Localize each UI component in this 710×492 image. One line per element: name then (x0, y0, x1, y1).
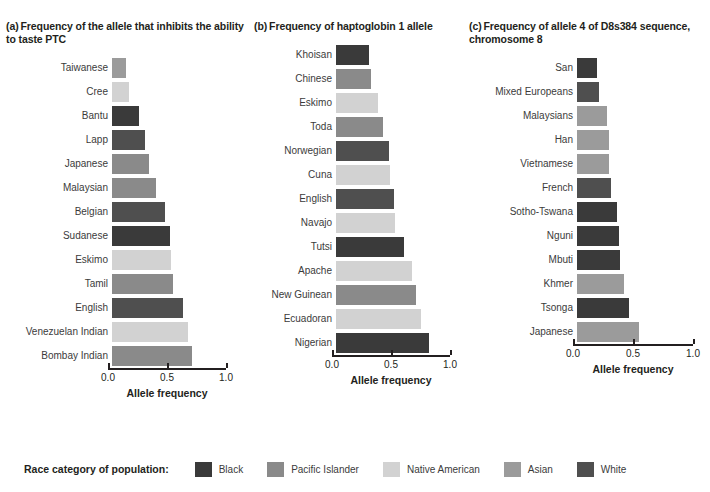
bar (577, 130, 609, 150)
bar-track (112, 224, 230, 248)
legend-item: White (577, 462, 627, 477)
bar (577, 82, 599, 102)
bar-row: Eskimo (0, 248, 250, 272)
bar-row: Norwegian (250, 139, 465, 163)
legend-swatch (504, 462, 521, 477)
bar (336, 93, 378, 113)
bar (577, 178, 611, 198)
bar-row: French (465, 176, 710, 200)
panel-a-rows: TaiwaneseCreeBantuLappJapaneseMalaysianB… (0, 46, 250, 368)
bar-track (577, 104, 697, 128)
bar-track (336, 283, 454, 307)
bar-category-label: Sotho-Tswana (465, 207, 577, 217)
bar-category-label: Japanese (465, 327, 577, 337)
bar (577, 250, 620, 270)
bar-row: Vietnamese (465, 152, 710, 176)
x-axis-tick-label: 1.0 (443, 359, 457, 370)
bar (336, 285, 416, 305)
figure-allele-frequency-charts: (a)Frequency of the allele that inhibits… (0, 0, 710, 492)
bar-track (336, 211, 454, 235)
bar (577, 226, 619, 246)
bar-row: Apache (250, 259, 465, 283)
panel-a-label: (a) (6, 20, 19, 32)
bar-track (112, 104, 230, 128)
bar-category-label: Taiwanese (0, 63, 112, 73)
bar-category-label: Tsonga (465, 303, 577, 313)
bar-category-label: Bantu (0, 111, 112, 121)
panel-b-axis: 0.00.51.0Allele frequency (250, 355, 465, 381)
panel-b-plot: KhoisanChineseEskimoTodaNorwegianCunaEng… (250, 33, 465, 381)
x-axis-tick-label: 0.5 (160, 372, 174, 383)
bar-track (336, 67, 454, 91)
bar-track (577, 152, 697, 176)
bar (577, 274, 624, 294)
bar-category-label: Malaysians (465, 111, 577, 121)
bar-row: Han (465, 128, 710, 152)
bar (577, 322, 639, 342)
bar-row: Belgian (0, 200, 250, 224)
bar-track (112, 176, 230, 200)
bar-row: Mixed Europeans (465, 80, 710, 104)
panel-c-title: (c)Frequency of allele 4 of D8s384 seque… (465, 0, 710, 46)
bar-track (112, 80, 230, 104)
x-axis-tick-label: 1.0 (686, 348, 700, 359)
bar-category-label: Khmer (465, 279, 577, 289)
bar-track (577, 80, 697, 104)
bar-track (577, 296, 697, 320)
bar-track (112, 320, 230, 344)
legend-item: Native American (383, 462, 480, 477)
bar (336, 69, 371, 89)
bar-row: Tutsi (250, 235, 465, 259)
bar (336, 333, 429, 353)
bar-row: Japanese (465, 320, 710, 344)
bar (336, 261, 412, 281)
bar-row: Khoisan (250, 43, 465, 67)
bar-track (112, 344, 230, 368)
bar-track (112, 272, 230, 296)
bar (112, 250, 171, 270)
bar-category-label: Eskimo (0, 255, 112, 265)
x-axis-tick (391, 350, 393, 355)
legend-label: Pacific Islander (291, 464, 359, 475)
bar-category-label: Tutsi (250, 242, 336, 252)
x-axis-tick (108, 363, 110, 368)
panel-a: (a)Frequency of the allele that inhibits… (0, 0, 250, 440)
bar (336, 117, 383, 137)
panel-a-title-text: Frequency of the allele that inhibits th… (6, 20, 244, 45)
bar (577, 106, 607, 126)
panel-a-plot: TaiwaneseCreeBantuLappJapaneseMalaysianB… (0, 46, 250, 394)
panel-c-rows: SanMixed EuropeansMalaysiansHanVietnames… (465, 46, 710, 344)
bar-row: Cuna (250, 163, 465, 187)
panel-c-axis: 0.00.51.0Allele frequency (465, 344, 710, 370)
legend-item: Black (195, 462, 243, 477)
bar-track (336, 91, 454, 115)
bar-category-label: Toda (250, 122, 336, 132)
x-axis-line (332, 355, 450, 357)
bar (336, 45, 369, 65)
bar (577, 154, 609, 174)
bar (336, 237, 404, 257)
x-axis-tick (573, 339, 575, 344)
bar-row: Sotho-Tswana (465, 200, 710, 224)
panel-b-label: (b) (254, 20, 267, 32)
bar-row: Venezuelan Indian (0, 320, 250, 344)
bar (112, 82, 129, 102)
bar-category-label: Cuna (250, 170, 336, 180)
bar-category-label: Cree (0, 87, 112, 97)
bar (112, 226, 170, 246)
bar-row: Nigerian (250, 331, 465, 355)
x-axis-tick-label: 0.0 (101, 372, 115, 383)
bar-row: English (0, 296, 250, 320)
bar-category-label: Sudanese (0, 231, 112, 241)
x-axis-tick (633, 339, 635, 344)
bar-track (577, 176, 697, 200)
x-axis-tick-label: 0.0 (566, 348, 580, 359)
x-axis-tick (226, 363, 228, 368)
bar-row: Lapp (0, 128, 250, 152)
bar-track (336, 163, 454, 187)
legend-label: Native American (407, 464, 480, 475)
bar-category-label: Lapp (0, 135, 112, 145)
bar (112, 106, 139, 126)
bar-track (577, 200, 697, 224)
bar-category-label: Chinese (250, 74, 336, 84)
